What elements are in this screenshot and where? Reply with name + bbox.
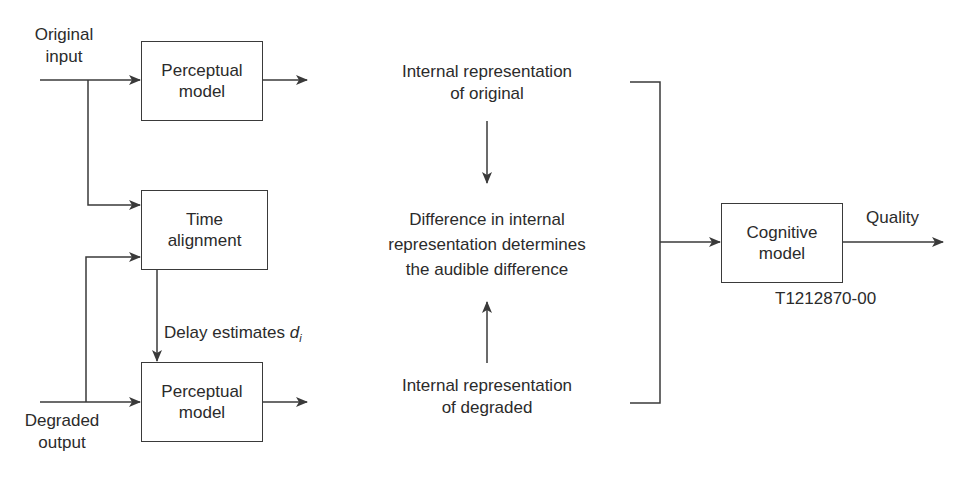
block-label: Cognitive <box>747 222 818 243</box>
label-line: Difference in internal <box>357 207 617 232</box>
label-line: output <box>20 432 104 454</box>
internal-representation-original-label: Internal representation of original <box>367 61 607 105</box>
label-line: Degraded <box>20 410 104 432</box>
perceptual-model-top-block: Perceptual model <box>141 41 263 121</box>
label-line: Internal representation <box>367 61 607 83</box>
delay-subscript: i <box>299 332 301 344</box>
quality-label: Quality <box>866 207 919 229</box>
block-label: Time <box>168 209 242 230</box>
delay-text: Delay estimates <box>164 323 290 342</box>
label-line: Original <box>22 24 106 46</box>
label-line: input <box>22 46 106 68</box>
degraded-output-label: Degraded output <box>20 410 104 454</box>
degraded-to-alignment-arrow <box>86 257 140 402</box>
original-input-label: Original input <box>22 24 106 68</box>
block-label: model <box>161 402 242 423</box>
label-line: representation determines <box>357 232 617 257</box>
delay-variable: d <box>290 323 299 342</box>
cognitive-model-block: Cognitive model <box>721 203 843 283</box>
block-label: Perceptual <box>161 60 242 81</box>
block-label: Perceptual <box>161 381 242 402</box>
perceptual-model-bottom-block: Perceptual model <box>141 362 263 442</box>
difference-label: Difference in internal representation de… <box>357 207 617 282</box>
time-alignment-block: Time alignment <box>141 190 268 270</box>
combine-bracket <box>630 82 660 403</box>
block-label: model <box>747 243 818 264</box>
label-line: of original <box>367 83 607 105</box>
original-to-alignment-arrow <box>88 80 140 205</box>
label-line: of degraded <box>367 397 607 419</box>
block-label: model <box>161 81 242 102</box>
delay-estimates-label: Delay estimates di <box>164 322 302 349</box>
block-label: alignment <box>168 230 242 251</box>
label-line: the audible difference <box>357 257 617 282</box>
internal-representation-degraded-label: Internal representation of degraded <box>367 375 607 419</box>
figure-id: T1212870-00 <box>775 288 876 310</box>
label-line: Internal representation <box>367 375 607 397</box>
